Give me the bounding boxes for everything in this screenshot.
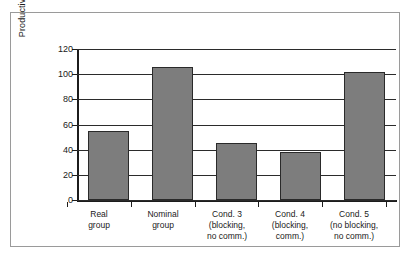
y-axis-title: Productivity (no. of ideas)	[11, 0, 33, 65]
gridline-0	[77, 200, 396, 201]
y-tick-label-80: 80	[43, 94, 73, 104]
y-tick-label-120: 120	[43, 44, 73, 54]
plot-area	[77, 49, 396, 200]
y-tick-label-20: 20	[43, 170, 73, 180]
gridline-120	[77, 49, 396, 50]
y-axis-tick-labels: 020406080100120	[41, 49, 73, 200]
y-tick-mark-60	[72, 125, 77, 126]
y-tick-mark-80	[72, 99, 77, 100]
x-tick-mark	[386, 202, 387, 207]
x-tick-mark	[67, 202, 68, 207]
y-tick-mark-120	[72, 49, 77, 50]
y-tick-mark-20	[72, 175, 77, 176]
bar	[280, 152, 321, 200]
y-tick-mark-100	[72, 74, 77, 75]
y-tick-mark-0	[72, 200, 77, 201]
bar	[88, 131, 129, 200]
y-tick-label-100: 100	[43, 69, 73, 79]
bar	[344, 72, 385, 200]
x-axis-label: Real group	[63, 209, 135, 231]
x-axis-label: Cond. 5 (no blocking, no comm.)	[318, 209, 390, 242]
x-tick-mark	[131, 202, 132, 207]
y-tick-mark-40	[72, 150, 77, 151]
x-axis-label: Cond. 4 (blocking, comm.)	[254, 209, 326, 242]
x-axis-label: Nominal group	[127, 209, 199, 231]
bar	[216, 143, 257, 200]
x-tick-mark	[195, 202, 196, 207]
y-tick-label-60: 60	[43, 120, 73, 130]
bar	[152, 67, 193, 200]
y-tick-label-0: 0	[43, 195, 73, 205]
chart-page: Productivity (no. of ideas) 020406080100…	[0, 0, 416, 267]
chart-frame: Productivity (no. of ideas) 020406080100…	[10, 12, 400, 247]
x-tick-mark	[258, 202, 259, 207]
x-tick-mark	[322, 202, 323, 207]
x-axis-label: Cond. 3 (blocking, no comm.)	[191, 209, 263, 242]
y-tick-label-40: 40	[43, 145, 73, 155]
